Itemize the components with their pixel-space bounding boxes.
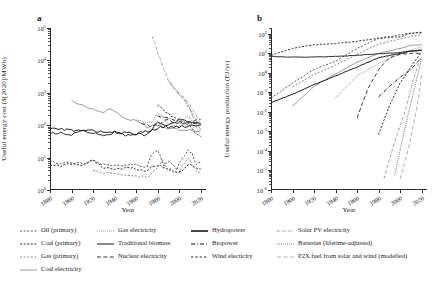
y-tick-label: 102 (258, 30, 267, 38)
panel-a: a Useful energy cost ($[2020]/MWh) Year … (0, 0, 221, 222)
series-line (379, 58, 422, 97)
x-tick (379, 190, 380, 193)
series-line (400, 74, 422, 179)
legend-line-swatch (191, 241, 208, 247)
legend-column-2: HydropowerBiopowerWind electicity (191, 224, 252, 263)
legend-item-label: Coal electricity (41, 266, 81, 273)
legend-column-1: Gas electricityTraditional biomassNuclea… (97, 224, 170, 263)
legend-item-label: Gas electricity (118, 227, 156, 234)
x-tick (271, 190, 272, 193)
legend-item[interactable]: Solar PV electricity (277, 224, 407, 237)
legend-line-swatch (20, 228, 37, 234)
x-tick-label: 1880 (39, 194, 53, 206)
x-tick-label: 2020 (411, 194, 425, 206)
legend-item-label: Hydropower (212, 227, 245, 234)
x-tick-label: 1940 (104, 194, 118, 206)
legend-item-label: Batteries (lifetime-adjusted) (298, 240, 372, 247)
series-line (50, 160, 201, 172)
figure-legend: Oil (primary)Coal (primary)Gas (primary)… (0, 224, 442, 286)
x-tick (293, 190, 294, 193)
x-tick-label: 1980 (368, 194, 382, 206)
legend-line-swatch (20, 241, 37, 247)
legend-item-label: Biopower (212, 240, 238, 247)
x-tick-label: 1900 (281, 194, 295, 206)
legend-line-swatch (277, 241, 294, 247)
y-tick-label: 105 (37, 24, 46, 32)
legend-line-swatch (277, 228, 294, 234)
legend-item[interactable]: Hydropower (191, 224, 252, 237)
legend-item-label: Nuclear electricity (118, 253, 167, 260)
legend-column-0: Oil (primary)Coal (primary)Gas (primary)… (20, 224, 81, 276)
x-tick-label: 1900 (60, 194, 74, 206)
legend-item[interactable]: Gas (primary) (20, 250, 81, 263)
x-tick (357, 190, 358, 193)
legend-item-label: Oil (primary) (41, 227, 76, 234)
series-line (271, 50, 422, 103)
y-tick-label: 101 (37, 154, 46, 162)
y-tick-label: 104 (37, 56, 46, 64)
x-tick (179, 190, 180, 193)
y-tick-label: 10-4 (257, 147, 267, 155)
legend-item-label: P2X fuel from solar and wind (modelled) (298, 253, 407, 260)
legend-item[interactable]: Traditional biomass (97, 237, 170, 250)
x-tick-label: 1880 (260, 194, 274, 206)
x-tick-label: 1940 (325, 194, 339, 206)
legend-item-label: Solar PV electricity (298, 227, 350, 234)
legend-line-swatch (191, 228, 208, 234)
series-line (152, 36, 200, 134)
x-tick (115, 190, 116, 193)
panel-a-plot-area: 100101102103104105 188019001920194019601… (50, 28, 206, 190)
y-tick-label: 100 (258, 69, 267, 77)
series-line (384, 55, 422, 178)
series-line (293, 35, 422, 87)
legend-item[interactable]: Nuclear electricity (97, 250, 170, 263)
y-tick-label: 10-3 (257, 127, 267, 135)
legend-item[interactable]: Coal electricity (20, 263, 81, 276)
x-tick (93, 190, 94, 193)
legend-line-swatch (191, 254, 208, 260)
legend-item[interactable]: Biopower (191, 237, 252, 250)
x-tick-label: 1920 (303, 194, 317, 206)
panel-b-plot-area: 10-610-510-410-310-210-1100101102 188019… (271, 28, 427, 190)
legend-item[interactable]: Batteries (lifetime-adjusted) (277, 237, 407, 250)
legend-line-swatch (97, 241, 114, 247)
legend-item[interactable]: Oil (primary) (20, 224, 81, 237)
x-tick-label: 1960 (346, 194, 360, 206)
legend-item[interactable]: P2X fuel from solar and wind (modelled) (277, 250, 407, 263)
x-tick (314, 190, 315, 193)
y-tick-label: 10-1 (257, 88, 267, 96)
legend-item-label: Traditional biomass (118, 240, 170, 247)
x-tick (400, 190, 401, 193)
x-tick (50, 190, 51, 193)
panel-b-y-axis-title: Useful energy production (EJ/yr) (223, 60, 231, 157)
series-line (271, 33, 422, 56)
legend-item[interactable]: Gas electricity (97, 224, 170, 237)
panel-b: b Useful energy production (EJ/yr) Year … (221, 0, 442, 222)
series-line (336, 47, 422, 99)
x-tick (422, 190, 423, 193)
figure-root: a Useful energy cost ($[2020]/MWh) Year … (0, 0, 442, 286)
legend-item-label: Coal (primary) (41, 240, 80, 247)
x-tick-label: 1980 (147, 194, 161, 206)
legend-item[interactable]: Coal (primary) (20, 237, 81, 250)
y-tick-label: 100 (37, 186, 46, 194)
y-tick-label: 10-6 (257, 186, 267, 194)
y-tick-label: 102 (37, 121, 46, 129)
x-tick-label: 2000 (389, 194, 403, 206)
x-tick (201, 190, 202, 193)
x-tick-label: 1920 (82, 194, 96, 206)
legend-item[interactable]: Wind electicity (191, 250, 252, 263)
panel-a-curves (50, 28, 206, 190)
x-tick (136, 190, 137, 193)
legend-item-label: Gas (primary) (41, 253, 78, 260)
legend-line-swatch (97, 254, 114, 260)
legend-line-swatch (20, 267, 37, 273)
legend-line-swatch (97, 228, 114, 234)
panel-a-letter: a (37, 13, 42, 23)
x-tick-label: 1960 (125, 194, 139, 206)
y-tick-label: 10-5 (257, 166, 267, 174)
series-line (379, 52, 422, 135)
series-line (72, 100, 201, 131)
x-tick (72, 190, 73, 193)
panel-b-curves (271, 28, 427, 190)
